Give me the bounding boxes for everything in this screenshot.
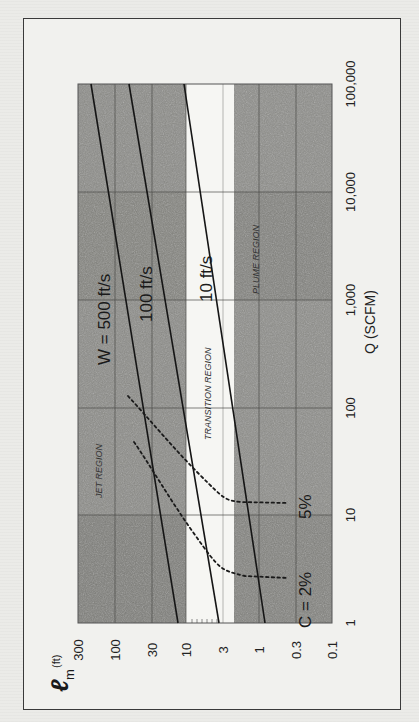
q-tick-10: 10 bbox=[343, 508, 358, 522]
label-plume-region: PLUME REGION bbox=[251, 224, 261, 294]
lm-tick-10: 10 bbox=[179, 643, 194, 657]
label-c2: C = 2% bbox=[296, 572, 315, 628]
lm-unit: (ft) bbox=[50, 655, 62, 668]
lm-subscript: m bbox=[62, 669, 77, 680]
label-c5: 5% bbox=[296, 494, 315, 519]
label-w100: 100 ft/s bbox=[137, 266, 156, 322]
q-tick-1000: 1,000 bbox=[343, 284, 358, 317]
label-w10: 10 ft/s bbox=[197, 256, 216, 302]
plume-region-band bbox=[234, 84, 332, 623]
q-tick-1: 1 bbox=[343, 619, 358, 626]
lm-tick-0.3: 0.3 bbox=[289, 641, 304, 659]
label-jet-region: JET REGION bbox=[94, 443, 104, 499]
q-tick-10000: 10,000 bbox=[343, 172, 358, 212]
lm-tick-0.1: 0.1 bbox=[325, 641, 340, 659]
lm-tick-100: 100 bbox=[108, 639, 123, 661]
q-axis-title: Q (SCFM) bbox=[362, 290, 378, 354]
q-tick-100: 100 bbox=[343, 397, 358, 419]
lm-tick-300: 300 bbox=[71, 639, 86, 661]
label-w500: W = 500 ft/s bbox=[95, 274, 114, 365]
chart-canvas: W = 500 ft/s 100 ft/s 10 ft/s 5% C = 2% … bbox=[0, 0, 419, 722]
lm-tick-3: 3 bbox=[216, 646, 231, 653]
lm-tick-1: 1 bbox=[252, 646, 267, 653]
label-transition-region: TRANSITION REGION bbox=[203, 347, 213, 440]
lm-tick-30: 30 bbox=[145, 643, 160, 657]
q-tick-100000: 100,000 bbox=[343, 61, 358, 108]
